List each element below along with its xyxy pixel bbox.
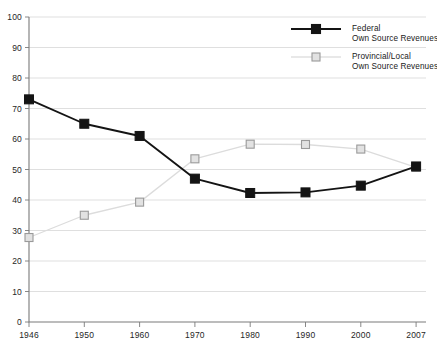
line-chart: 0102030405060708090100 19461950196019701…	[0, 0, 437, 346]
data-point-1960	[136, 198, 144, 206]
data-point-1970	[190, 174, 199, 183]
data-point-1990	[301, 188, 310, 197]
x-tick-label-2007: 2007	[406, 330, 426, 340]
data-point-1980	[246, 140, 254, 148]
x-tick-label-1990: 1990	[296, 330, 316, 340]
x-axis-ticks: 19461950196019701980199020002007	[19, 322, 426, 340]
data-point-1960	[135, 131, 144, 140]
legend-label-provincial-local-line2: Own Source Revenues	[352, 62, 437, 71]
legend-marker-provincial-local	[312, 53, 320, 61]
y-tick-label-0: 0	[17, 317, 22, 327]
data-point-1946	[25, 95, 34, 104]
data-point-2000	[357, 145, 365, 153]
y-tick-label-30: 30	[12, 226, 22, 236]
legend-item-provincial-local: Provincial/LocalOwn Source Revenues	[291, 52, 437, 72]
data-point-2007	[412, 162, 421, 171]
legend-item-federal: FederalOwn Source Revenues	[291, 24, 437, 44]
y-tick-label-70: 70	[12, 104, 22, 114]
x-tick-label-1950: 1950	[74, 330, 94, 340]
y-tick-label-60: 60	[12, 134, 22, 144]
y-tick-label-10: 10	[12, 287, 22, 297]
chart-container: 0102030405060708090100 19461950196019701…	[0, 0, 437, 346]
x-tick-label-1970: 1970	[185, 330, 205, 340]
y-tick-label-20: 20	[12, 256, 22, 266]
y-tick-label-50: 50	[12, 165, 22, 175]
data-point-2000	[356, 181, 365, 190]
data-point-1950	[80, 119, 89, 128]
y-tick-label-100: 100	[7, 12, 22, 22]
legend-label-federal-line1: Federal	[352, 24, 381, 33]
x-tick-label-1946: 1946	[19, 330, 39, 340]
legend-label-provincial-local-line1: Provincial/Local	[352, 52, 411, 61]
legend-marker-federal	[312, 25, 321, 34]
data-point-1990	[302, 140, 310, 148]
data-point-1980	[246, 188, 255, 197]
legend-label-federal-line2: Own Source Revenues	[352, 34, 437, 43]
data-point-1970	[191, 155, 199, 163]
x-tick-label-2000: 2000	[351, 330, 371, 340]
x-tick-label-1980: 1980	[240, 330, 260, 340]
data-point-1946	[25, 234, 33, 242]
series-line	[29, 144, 416, 237]
y-tick-label-40: 40	[12, 195, 22, 205]
y-axis-ticks: 0102030405060708090100	[7, 12, 29, 327]
x-tick-label-1960: 1960	[130, 330, 150, 340]
data-point-1950	[80, 211, 88, 219]
series-provincial-local	[25, 140, 420, 241]
y-tick-label-80: 80	[12, 73, 22, 83]
y-tick-label-90: 90	[12, 43, 22, 53]
